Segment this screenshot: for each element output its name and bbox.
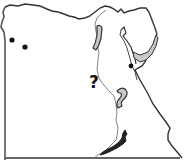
- marker-dot-2: [22, 44, 27, 49]
- red-sea-coast: [135, 34, 182, 158]
- western-border: [1, 7, 5, 160]
- marker-dot-3: [129, 64, 134, 69]
- question-mark-annotation: ?: [89, 72, 99, 92]
- shaded-region-sinai: [133, 35, 158, 62]
- marker-dot-1: [9, 37, 14, 42]
- shaded-region-north-curve: [93, 25, 102, 50]
- shaded-region-nile-bend: [117, 88, 127, 108]
- egypt-outline-map: ?: [0, 0, 194, 165]
- gulf-of-suez: [121, 27, 136, 64]
- northern-coast: [5, 4, 157, 34]
